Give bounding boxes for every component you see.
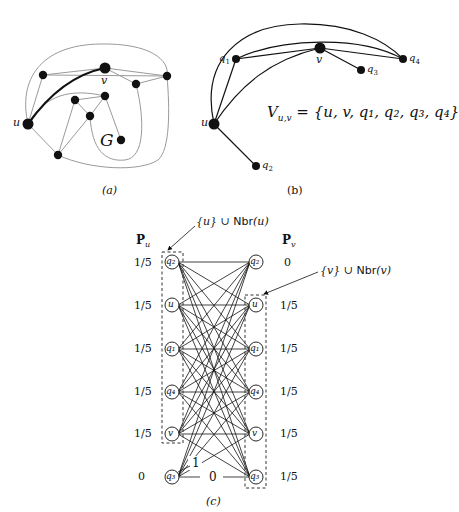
node-u bbox=[209, 119, 220, 130]
node-right-q3: q₃ bbox=[250, 472, 259, 481]
node-q1 bbox=[232, 55, 240, 63]
prob-left-q4: 1/5 bbox=[134, 386, 152, 397]
prob-right-u: 1/5 bbox=[280, 300, 298, 311]
prob-right-q3: 1/5 bbox=[280, 471, 298, 482]
label-q4-b: q4 bbox=[409, 53, 420, 66]
annotation-right-set: {v} ∪ Nbr(v) bbox=[320, 265, 391, 276]
prob-right-q1: 1/5 bbox=[280, 343, 298, 354]
prob-left-q2: 1/5 bbox=[134, 257, 152, 268]
label-v-a: v bbox=[101, 75, 107, 86]
graph-a bbox=[26, 44, 169, 168]
edge bbox=[26, 44, 168, 124]
node-right-q1: q₁ bbox=[250, 344, 259, 353]
label-q3-b: q3 bbox=[367, 64, 378, 77]
prob-right-v: 1/5 bbox=[280, 428, 298, 439]
prob-right-q2: 0 bbox=[284, 257, 291, 268]
prob-left-q1: 1/5 bbox=[134, 343, 152, 354]
annotation-arrow-left bbox=[168, 226, 195, 250]
annotation-arrow-right bbox=[264, 272, 318, 294]
vertex-set-formula: Vu,v = {u, v, q₁, q₂, q₃, q₄} bbox=[267, 105, 459, 123]
header-P-v: Pv bbox=[282, 234, 296, 249]
caption-b: (b) bbox=[287, 185, 303, 196]
prob-left-u: 1/5 bbox=[134, 300, 152, 311]
bipartite-edges bbox=[178, 262, 250, 477]
node-q4 bbox=[399, 55, 407, 63]
label-v-b: v bbox=[316, 54, 322, 65]
node-left-u: u bbox=[168, 300, 174, 309]
caption-c: (c) bbox=[206, 496, 221, 507]
edge-label-0: 0 bbox=[209, 471, 217, 483]
prob-right-q4: 1/5 bbox=[280, 386, 298, 397]
node-right-q4: q₄ bbox=[250, 387, 259, 396]
label-q2-b: q2 bbox=[262, 160, 273, 173]
node-right-u: u bbox=[252, 300, 258, 309]
node-v bbox=[100, 63, 111, 74]
node-left-q3: q₃ bbox=[166, 472, 175, 481]
node-right-q2: q₂ bbox=[250, 257, 259, 266]
caption-a: (a) bbox=[102, 185, 117, 196]
label-q1-b: q1 bbox=[219, 53, 230, 66]
header-P-u: Pu bbox=[136, 234, 150, 249]
label-u-a: u bbox=[13, 117, 20, 128]
annotation-left-set: {u} ∪ Nbr(u) bbox=[196, 216, 269, 227]
node-v bbox=[315, 43, 326, 54]
node-left-q4: q₄ bbox=[166, 387, 175, 396]
prob-left-q3: 0 bbox=[138, 471, 145, 482]
node-left-q2: q₂ bbox=[166, 257, 175, 266]
graph-b bbox=[211, 24, 403, 166]
label-G: G bbox=[100, 132, 114, 149]
node-u bbox=[23, 119, 34, 130]
node-q2 bbox=[252, 162, 260, 170]
edge-label-1: 1 bbox=[192, 457, 200, 469]
node-left-q1: q₁ bbox=[166, 344, 175, 353]
label-u-b: u bbox=[201, 117, 208, 128]
node-right-v: v bbox=[252, 429, 257, 438]
node-left-v: v bbox=[168, 429, 173, 438]
node-q3 bbox=[357, 66, 365, 74]
prob-left-v: 1/5 bbox=[134, 428, 152, 439]
